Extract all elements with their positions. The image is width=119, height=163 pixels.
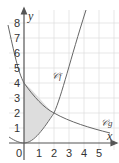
origin-label: 0 xyxy=(16,147,22,159)
svg-text:5: 5 xyxy=(96,147,102,159)
function-graph: 0 1 2 3 4 5 1 2 3 4 5 6 7 8 y x 𝒞f 𝒞g xyxy=(0,0,119,163)
curve-g-label: 𝒞g xyxy=(101,118,113,128)
y-tick-labels: 1 2 3 4 5 6 7 8 xyxy=(14,17,20,134)
svg-text:1: 1 xyxy=(14,122,20,134)
svg-text:1: 1 xyxy=(36,147,42,159)
svg-text:4: 4 xyxy=(14,77,20,89)
svg-text:3: 3 xyxy=(66,147,72,159)
svg-text:8: 8 xyxy=(14,17,20,29)
svg-text:5: 5 xyxy=(14,62,20,74)
x-axis-label: x xyxy=(106,129,113,143)
svg-text:2: 2 xyxy=(14,107,20,119)
svg-text:6: 6 xyxy=(14,47,20,59)
x-tick-labels: 0 1 2 3 4 5 xyxy=(16,147,102,159)
curve-f-label: 𝒞f xyxy=(52,71,63,81)
svg-text:4: 4 xyxy=(81,147,87,159)
svg-text:2: 2 xyxy=(51,147,57,159)
svg-text:7: 7 xyxy=(14,32,20,44)
svg-text:3: 3 xyxy=(14,92,20,104)
y-axis-label: y xyxy=(27,9,34,23)
